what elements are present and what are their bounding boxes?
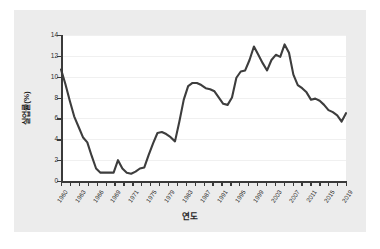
x-axis-tick-mark — [310, 182, 311, 186]
y-axis-tick-mark — [57, 118, 61, 119]
y-axis-tick-mark — [57, 56, 61, 57]
x-axis-tick-mark — [97, 182, 98, 186]
y-axis-tick-mark — [57, 77, 61, 78]
x-axis-tick-mark — [70, 182, 71, 186]
x-axis-tick-mark — [79, 182, 80, 186]
x-axis-tick-mark — [177, 182, 178, 186]
x-axis-tick-mark — [168, 182, 169, 186]
x-axis-tick-mark — [61, 182, 62, 186]
x-axis-tick-mark — [132, 182, 133, 186]
chart-figure: 02468101214 1960196319661969197119751979… — [14, 10, 366, 232]
x-axis-tick-mark — [293, 182, 294, 186]
x-axis-tick-mark — [275, 182, 276, 186]
y-axis-tick-mark — [57, 98, 61, 99]
x-axis-tick-mark — [266, 182, 267, 186]
y-axis-tick-mark — [57, 35, 61, 36]
x-axis-tick-mark — [328, 182, 329, 186]
x-axis-tick-mark — [195, 182, 196, 186]
x-axis-tick-mark — [239, 182, 240, 186]
x-axis-tick-mark — [248, 182, 249, 186]
x-axis-tick-mark — [319, 182, 320, 186]
x-axis-tick-mark — [257, 182, 258, 186]
plot-area — [61, 35, 346, 181]
x-axis-tick-mark — [204, 182, 205, 186]
y-axis-tick-labels: 02468101214 — [44, 35, 58, 181]
x-axis-title: 연도 — [14, 209, 366, 221]
x-axis-tick-mark — [141, 182, 142, 186]
x-axis-tick-mark — [212, 182, 213, 186]
x-axis-tick-mark — [106, 182, 107, 186]
x-axis-tick-mark — [284, 182, 285, 186]
x-axis-tick-mark — [301, 182, 302, 186]
x-axis-tick-mark — [346, 182, 347, 186]
x-axis-tick-mark — [159, 182, 160, 186]
x-axis-tick-mark — [186, 182, 187, 186]
x-axis-tick-mark — [221, 182, 222, 186]
unemployment-rate-line-series — [61, 35, 346, 181]
y-axis-tick-mark — [57, 160, 61, 161]
y-axis-title: 실업률(%) — [20, 91, 31, 124]
x-axis-tick-mark — [150, 182, 151, 186]
y-axis-line — [61, 35, 63, 182]
x-axis-tick-mark — [114, 182, 115, 186]
x-axis-tick-mark — [88, 182, 89, 186]
y-axis-tick-mark — [57, 139, 61, 140]
x-axis-tick-mark — [337, 182, 338, 186]
x-axis-tick-mark — [230, 182, 231, 186]
x-axis-tick-mark — [123, 182, 124, 186]
